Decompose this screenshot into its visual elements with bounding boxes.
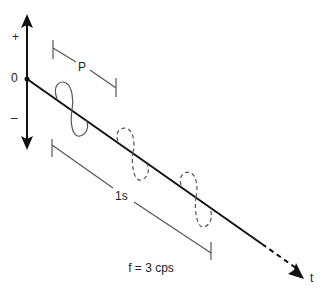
duration-bracket [52,139,211,260]
plus-label: + [12,30,19,44]
time-axis-label: t [310,271,314,285]
duration-label: 1s [115,189,128,203]
time-axis [27,79,304,279]
zero-label: 0 [11,71,18,85]
wave-cycle-2 [117,128,148,180]
period-label: P [78,60,86,74]
wave-cycle-3 [180,172,211,227]
frequency-caption: f = 3 cps [128,261,174,275]
wave-diagram: + 0 – t P 1s f = 3 cps [0,0,322,288]
arrow-right-icon [288,263,304,279]
minus-label: – [11,111,18,125]
